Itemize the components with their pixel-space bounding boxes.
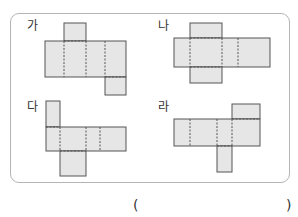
answer-open-paren: ( bbox=[133, 197, 138, 213]
nets-diagram bbox=[0, 0, 298, 217]
answer-blank[interactable] bbox=[145, 197, 283, 213]
answer-close-paren: ) bbox=[286, 197, 291, 213]
